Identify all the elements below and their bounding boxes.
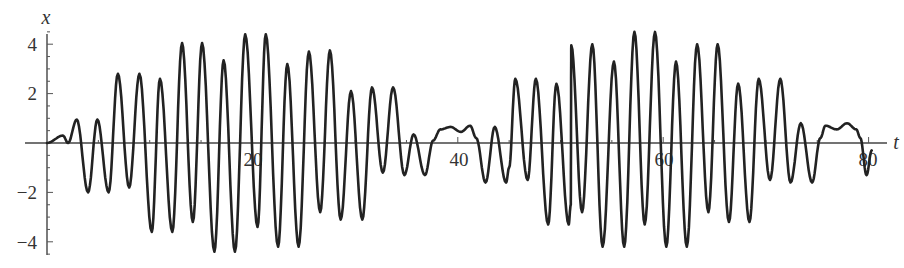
x-tick-label-4: 4 [28,34,38,55]
x-tick-label-neg2: −2 [17,182,37,203]
x-tick-label-2: 2 [28,83,38,104]
series-x-of-t [47,32,872,252]
t-axis-title: t [893,131,899,153]
t-axis-ticks [98,137,868,143]
line-chart: 20 40 60 80 4 2 −2 −4 x t [0,0,904,268]
t-tick-label-40: 40 [450,149,469,170]
x-tick-label-neg4: −4 [17,232,38,253]
x-axis-title: x [41,6,51,28]
